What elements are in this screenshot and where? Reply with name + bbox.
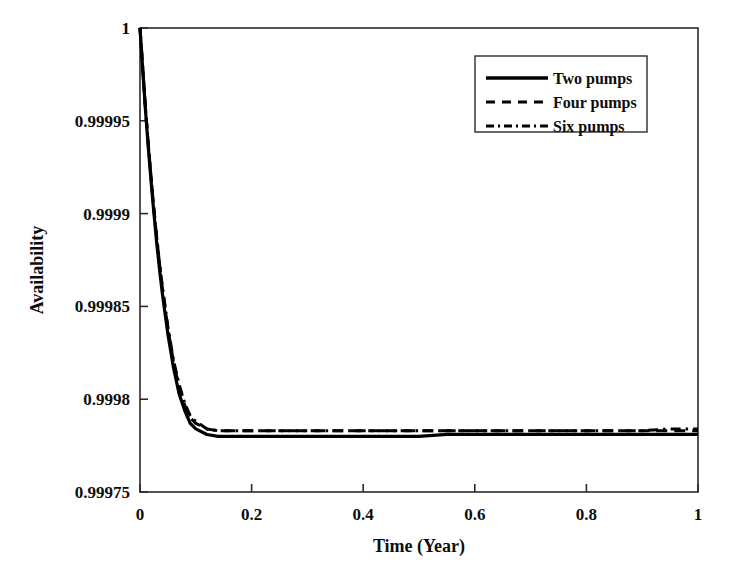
- y-tick-label: 0.99985: [75, 297, 130, 316]
- y-tick-label: 1: [122, 19, 131, 38]
- legend-label-two-pumps: Two pumps: [553, 70, 632, 88]
- y-tick-label: 0.99975: [75, 483, 130, 502]
- y-tick-label: 0.9998: [83, 390, 130, 409]
- x-axis-title: Time (Year): [373, 536, 465, 557]
- legend-label-six-pumps: Six pumps: [553, 118, 625, 136]
- x-tick-label: 0.6: [464, 505, 485, 524]
- x-tick-label: 0.2: [241, 505, 262, 524]
- legend: Two pumpsFour pumpsSix pumps: [475, 56, 647, 136]
- x-tick-label: 0.8: [576, 505, 597, 524]
- legend-label-four-pumps: Four pumps: [553, 94, 637, 112]
- y-tick-label: 0.9999: [83, 205, 130, 224]
- x-tick-label: 1: [694, 505, 703, 524]
- figure-container: 10.999950.99990.999850.99980.99975 00.20…: [0, 0, 732, 574]
- availability-line-chart: 10.999950.99990.999850.99980.99975 00.20…: [0, 0, 732, 574]
- y-tick-label: 0.99995: [75, 112, 130, 131]
- y-axis-title: Availability: [27, 226, 47, 315]
- x-tick-label: 0.4: [353, 505, 375, 524]
- x-tick-label: 0: [136, 505, 145, 524]
